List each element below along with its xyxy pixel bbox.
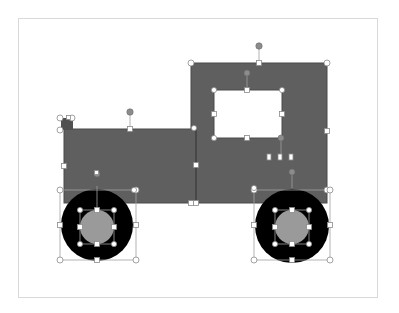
rotate-handle-cab: [256, 43, 262, 49]
rotate-handle-wheel-right: [289, 169, 295, 175]
rotate-handle-misc: [278, 135, 284, 141]
cab-shape[interactable]: [191, 63, 327, 203]
drawing-canvas[interactable]: [0, 0, 399, 313]
rotate-handle-window: [244, 70, 250, 76]
rotate-handle-body: [127, 109, 133, 115]
wheel-right[interactable]: [255, 189, 329, 263]
